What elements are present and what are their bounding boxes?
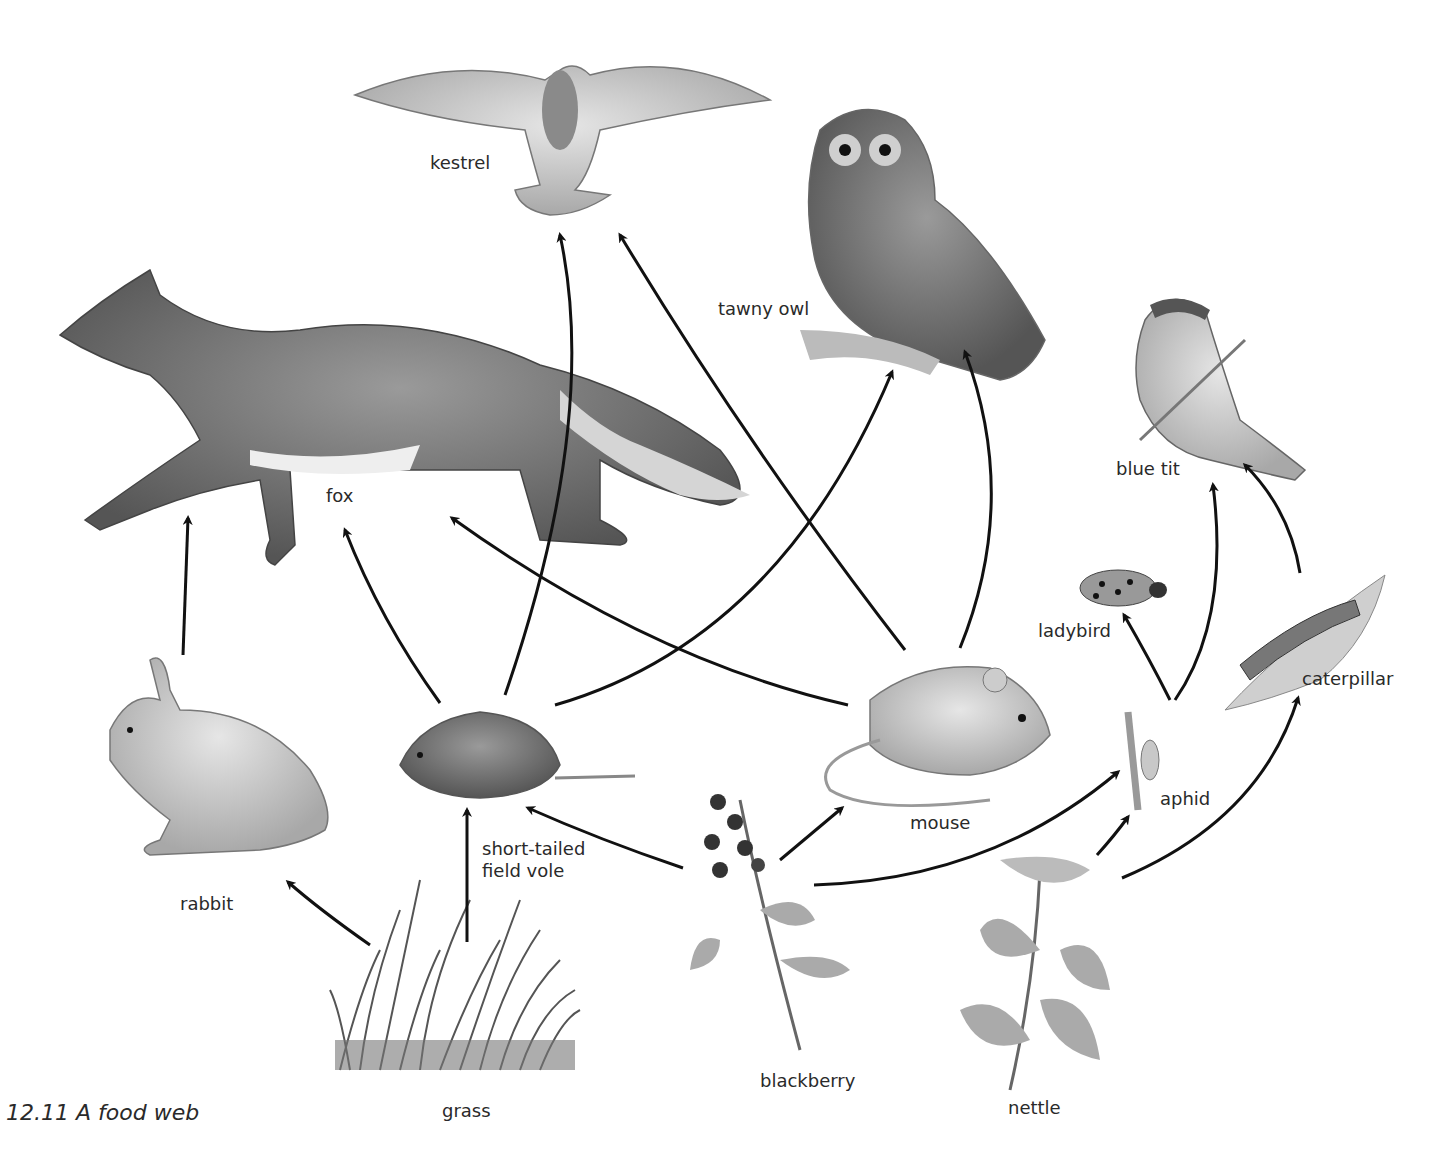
kestrel-illustration bbox=[355, 66, 770, 215]
label-fox: fox bbox=[326, 485, 353, 507]
food-web-graphic bbox=[0, 0, 1436, 1160]
tawny-owl-illustration bbox=[800, 110, 1045, 380]
arrow-rabbit-to-fox bbox=[183, 518, 188, 655]
nettle-illustration bbox=[960, 857, 1110, 1090]
label-caterpillar: caterpillar bbox=[1302, 668, 1393, 690]
arrow-aphid-to-ladybird bbox=[1124, 615, 1170, 700]
blackberry-illustration bbox=[690, 794, 850, 1050]
grass-illustration bbox=[330, 880, 580, 1070]
label-blackberry: blackberry bbox=[760, 1070, 855, 1092]
label-blue-tit: blue tit bbox=[1116, 458, 1180, 480]
figure-caption: 12.11 A food web bbox=[6, 1100, 199, 1125]
label-tawny-owl: tawny owl bbox=[718, 298, 809, 320]
label-nettle: nettle bbox=[1008, 1097, 1061, 1119]
label-mouse: mouse bbox=[910, 812, 970, 834]
aphid-illustration bbox=[1128, 712, 1159, 810]
label-rabbit: rabbit bbox=[180, 893, 233, 915]
ladybird-illustration bbox=[1080, 570, 1167, 606]
food-web-diagram: kestrel tawny owl fox blue tit ladybird … bbox=[0, 0, 1436, 1160]
arrow-aphid-to-bluetit bbox=[1175, 485, 1217, 700]
label-ladybird: ladybird bbox=[1038, 620, 1111, 642]
label-grass: grass bbox=[442, 1100, 491, 1122]
arrow-nettle-to-aphid bbox=[1097, 817, 1128, 855]
vole-illustration bbox=[400, 712, 635, 798]
rabbit-illustration bbox=[110, 658, 328, 855]
mouse-illustration bbox=[826, 667, 1050, 806]
blue-tit-illustration bbox=[1136, 299, 1305, 480]
arrow-caterpillar-to-bluetit bbox=[1245, 465, 1300, 573]
label-aphid: aphid bbox=[1160, 788, 1210, 810]
fox-illustration bbox=[60, 270, 750, 565]
arrow-mouse-to-owl bbox=[960, 352, 991, 648]
label-kestrel: kestrel bbox=[430, 152, 490, 174]
arrow-blackberry-to-mouse bbox=[780, 808, 842, 860]
arrow-vole-to-fox bbox=[345, 530, 440, 703]
label-vole: short-tailed field vole bbox=[482, 838, 585, 882]
arrow-grass-to-rabbit bbox=[288, 882, 370, 945]
